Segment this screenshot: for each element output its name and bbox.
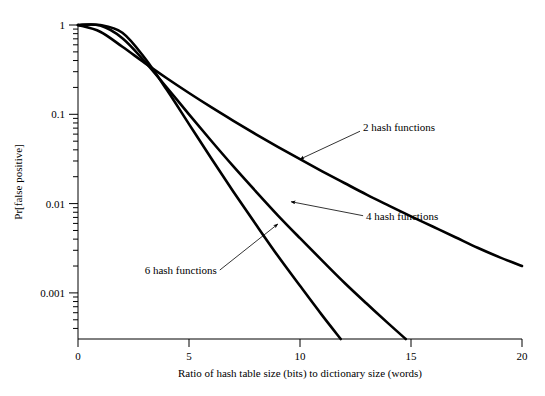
y-tick-label: 0.1 bbox=[51, 108, 65, 120]
x-tick-label: 0 bbox=[75, 350, 81, 362]
false-positive-rate-chart: 10.10.010.001 05101520 2 hash functions4… bbox=[0, 0, 545, 396]
chart-background bbox=[0, 0, 545, 396]
x-tick-label: 15 bbox=[406, 350, 418, 362]
annotation-label-2-hash-functions: 2 hash functions bbox=[363, 121, 435, 133]
annotation-label-4-hash-functions: 4 hash functions bbox=[366, 210, 438, 222]
y-tick-label: 1 bbox=[60, 19, 66, 31]
x-axis-title: Ratio of hash table size (bits) to dicti… bbox=[178, 367, 422, 380]
y-axis-title: Pr[false positive] bbox=[12, 144, 24, 219]
x-tick-label: 20 bbox=[517, 350, 529, 362]
annotation-label-6-hash-functions: 6 hash functions bbox=[145, 264, 217, 276]
y-tick-label: 0.01 bbox=[46, 198, 65, 210]
chart-figure: 10.10.010.001 05101520 2 hash functions4… bbox=[0, 0, 545, 396]
y-tick-label: 0.001 bbox=[40, 287, 65, 299]
x-tick-label: 10 bbox=[295, 350, 307, 362]
x-tick-label: 5 bbox=[186, 350, 192, 362]
